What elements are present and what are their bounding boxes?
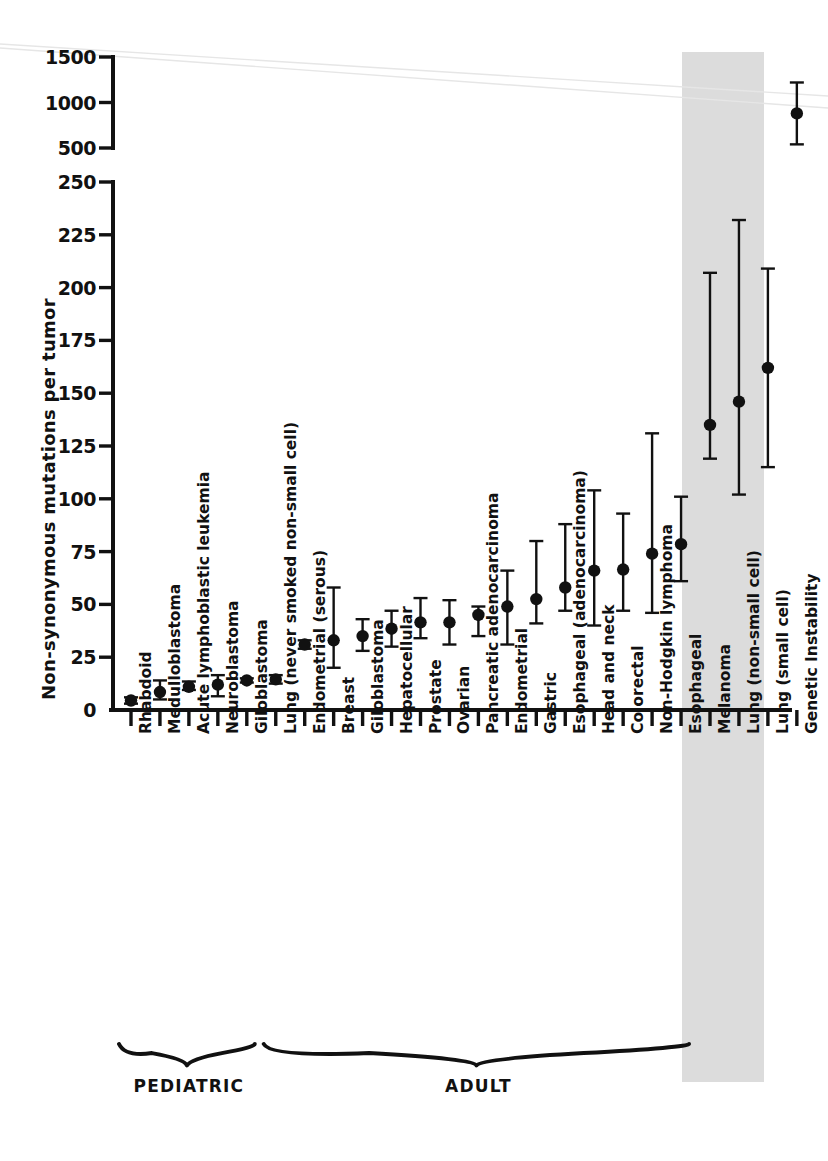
- data-point-group: [442, 600, 456, 644]
- data-point-group: [182, 681, 196, 693]
- x-axis-label: Lung (never smoked non-small cell): [282, 422, 300, 734]
- data-point-marker: [212, 678, 224, 690]
- x-axis-label: Giloblastoma: [253, 619, 271, 734]
- data-point-group: [732, 220, 746, 495]
- data-point-marker: [646, 548, 658, 560]
- x-axis-label: Endometrial: [513, 628, 531, 734]
- data-point-marker: [559, 581, 571, 593]
- y-tick-label-upper: 500: [58, 137, 96, 159]
- y-tick-label-lower: 0: [83, 699, 96, 721]
- x-axis-label: Colorectal: [629, 645, 647, 734]
- data-point-group: [703, 273, 717, 459]
- data-point-marker: [588, 564, 600, 576]
- y-tick-label-upper: 1500: [45, 46, 96, 68]
- data-point-marker: [241, 674, 253, 686]
- scan-line: [0, 44, 828, 96]
- x-axis-label: Acute lymphoblastic leukemia: [195, 472, 213, 734]
- data-point-marker: [443, 616, 455, 628]
- data-point-marker: [733, 395, 745, 407]
- x-axis-label: Non-Hodgkin lymphoma: [658, 524, 676, 734]
- x-axis-label: Pancreatic adenocarcinoma: [484, 493, 502, 734]
- data-point-marker: [414, 616, 426, 628]
- data-point-group: [761, 269, 775, 468]
- data-point-marker: [183, 681, 195, 693]
- x-axis-label: Hepatocellular: [398, 606, 416, 734]
- data-point-marker: [385, 622, 397, 634]
- data-point-group: [616, 514, 630, 611]
- y-tick-label-lower: 200: [58, 277, 96, 299]
- y-tick-label-lower: 125: [58, 435, 96, 457]
- x-axis-label: Prostate: [427, 659, 445, 734]
- data-point-group: [645, 433, 659, 613]
- data-point-marker: [501, 600, 513, 612]
- x-axis-label: Giloblastoma: [369, 619, 387, 734]
- data-point-marker: [154, 686, 166, 698]
- data-point-marker: [270, 673, 282, 685]
- data-point-marker: [704, 419, 716, 431]
- group-brace: [119, 1044, 255, 1065]
- x-axis-label: Head and neck: [600, 605, 618, 734]
- data-point-marker: [675, 538, 687, 550]
- data-point-group: [153, 680, 167, 699]
- y-tick-label-lower: 50: [71, 593, 96, 615]
- data-point-marker: [530, 593, 542, 605]
- data-point-group: [356, 619, 370, 651]
- chart-root: 50010001500 0255075100125150175200225250…: [0, 0, 828, 1161]
- x-axis-label: Genetic Instability: [803, 573, 821, 734]
- x-axis-label: Melanoma: [716, 644, 734, 734]
- data-point-marker: [299, 638, 311, 650]
- x-axis-label: Lung (small cell): [774, 589, 792, 734]
- data-point-group: [124, 694, 138, 706]
- plot-canvas: [0, 0, 828, 1161]
- x-axis-label: Neuroblastoma: [224, 600, 242, 734]
- x-axis-label: Esophageal: [687, 634, 705, 734]
- x-axis-label: Ovarian: [455, 666, 473, 734]
- data-point-group: [674, 497, 688, 581]
- y-tick-label-lower: 150: [58, 382, 96, 404]
- y-tick-label-lower: 175: [58, 329, 96, 351]
- data-point-marker: [472, 609, 484, 621]
- group-brace: [264, 1044, 689, 1065]
- y-tick-label-lower: 75: [71, 541, 96, 563]
- x-axis-label: Rhabdoid: [137, 651, 155, 734]
- x-axis-label: Esophageal (adenocarcinoma): [571, 470, 589, 734]
- y-tick-label-lower: 25: [71, 646, 96, 668]
- data-point-marker: [791, 107, 803, 119]
- y-tick-label-upper: 1000: [45, 92, 96, 114]
- x-axis-label: Endometrial (serous): [311, 550, 329, 734]
- x-axis-label: Medulloblastoma: [166, 584, 184, 734]
- x-axis-label: Breast: [340, 677, 358, 734]
- data-point-marker: [125, 694, 137, 706]
- data-point-group: [529, 541, 543, 623]
- data-point-marker: [356, 630, 368, 642]
- y-axis-title: Non-synonymous mutations per tumor: [38, 298, 59, 700]
- group-label: ADULT: [445, 1076, 512, 1096]
- data-point-marker: [617, 563, 629, 575]
- scan-line: [0, 48, 828, 108]
- x-axis-label: Lung (non-small cell): [745, 550, 763, 734]
- data-point-marker: [762, 362, 774, 374]
- data-point-marker: [327, 634, 339, 646]
- y-tick-label-lower: 100: [58, 488, 96, 510]
- data-point-group: [790, 82, 804, 144]
- y-tick-label-lower: 225: [58, 224, 96, 246]
- x-axis-label: Gastric: [542, 672, 560, 734]
- y-tick-label-lower: 250: [58, 171, 96, 193]
- group-label: PEDIATRIC: [134, 1076, 245, 1096]
